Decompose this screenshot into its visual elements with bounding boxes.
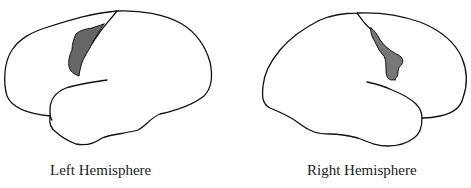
brain-diagram <box>0 0 471 188</box>
right-brain-outline <box>263 13 467 146</box>
left-lesion <box>69 24 104 76</box>
left-brain-outline <box>5 11 212 145</box>
right-temporal-boundary <box>367 82 422 118</box>
right-hemisphere-drawing <box>263 13 467 146</box>
right-lesion <box>371 28 403 80</box>
left-hemisphere-drawing <box>5 11 212 145</box>
left-hemisphere-label: Left Hemisphere <box>50 162 151 179</box>
left-temporal-boundary <box>50 80 107 120</box>
right-hemisphere-label: Right Hemisphere <box>307 162 417 179</box>
